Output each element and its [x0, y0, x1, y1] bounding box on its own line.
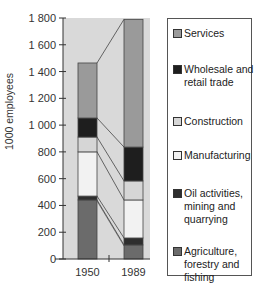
- bar-segment: [78, 118, 97, 137]
- bar-segment: [124, 19, 143, 147]
- legend-swatch: [173, 65, 182, 74]
- bar-segment: [124, 238, 143, 245]
- legend-swatch: [173, 247, 182, 256]
- bar-segment: [124, 200, 143, 238]
- legend-label: Services: [173, 27, 256, 40]
- legend-swatch: [173, 189, 182, 198]
- legend-label: Agriculture,forestry andfishing: [173, 245, 256, 284]
- legend-swatch: [173, 151, 182, 160]
- bar-segment: [124, 181, 143, 200]
- legend-item: Services: [173, 27, 256, 40]
- legend-item: Construction: [173, 115, 256, 128]
- legend-item: Oil activities,mining andquarrying: [173, 187, 256, 226]
- legend-label: Manufacturing: [173, 149, 256, 162]
- legend-swatch: [173, 117, 182, 126]
- legend-item: Manufacturing: [173, 149, 256, 162]
- y-tick-label: 400: [38, 199, 56, 211]
- bar-segment: [78, 196, 97, 200]
- legend-label: Oil activities,mining andquarrying: [173, 187, 256, 226]
- y-tick-label: 600: [38, 173, 56, 185]
- y-tick-label: 1 400: [28, 66, 56, 78]
- legend-swatch: [173, 29, 182, 38]
- y-tick-label: 1 600: [28, 39, 56, 51]
- legend-label: Wholesale andretail trade: [173, 63, 256, 89]
- y-tick-label: 1 000: [28, 119, 56, 131]
- x-tick-label: 1989: [121, 266, 145, 278]
- bar-segment: [124, 147, 143, 181]
- legend-item: Agriculture,forestry andfishing: [173, 245, 256, 284]
- bar-segment: [78, 137, 97, 152]
- legend-label: Construction: [173, 115, 256, 128]
- bar-segment: [78, 152, 97, 196]
- y-axis: 02004006008001 0001 2001 4001 6001 800: [28, 12, 66, 265]
- bar-segment: [78, 200, 97, 259]
- y-tick-label: 1 800: [28, 12, 56, 24]
- legend: ServicesWholesale andretail tradeConstru…: [167, 18, 252, 276]
- bar-segment: [78, 63, 97, 118]
- x-tick-label: 1950: [75, 266, 99, 278]
- y-axis-label: 1000 employees: [3, 73, 15, 150]
- y-tick-label: 800: [38, 146, 56, 158]
- legend-item: Wholesale andretail trade: [173, 63, 256, 89]
- y-tick-label: 200: [38, 226, 56, 238]
- y-tick-label: 1 200: [28, 92, 56, 104]
- bar-segment: [124, 245, 143, 259]
